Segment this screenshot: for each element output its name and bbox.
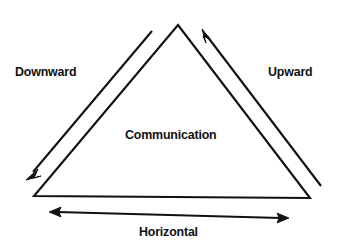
communication-diagram: Downward Upward Communication Horizontal: [0, 0, 337, 249]
arrow-down-left-icon: [26, 31, 152, 180]
diagram-canvas: [0, 0, 337, 249]
label-communication: Communication: [125, 128, 216, 142]
arrow-left-right-icon: [49, 207, 289, 223]
label-downward: Downward: [15, 65, 76, 79]
label-upward: Upward: [268, 65, 312, 79]
arrow-up-left-icon: [202, 29, 321, 186]
triangle-outline-icon: [34, 25, 310, 198]
label-horizontal: Horizontal: [139, 225, 198, 239]
